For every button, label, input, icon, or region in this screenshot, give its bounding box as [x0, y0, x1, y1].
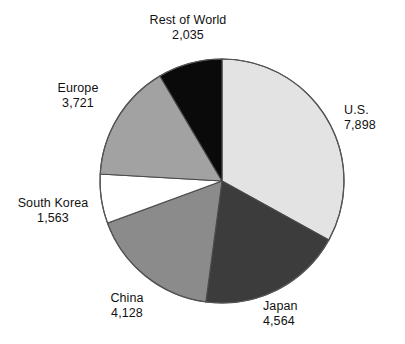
- slice-label-value: 3,721: [34, 96, 122, 111]
- slice-label-name: Europe: [34, 81, 122, 96]
- slice-label-japan: Japan 4,564: [263, 299, 335, 329]
- slice-label-name: Rest of World: [118, 13, 258, 28]
- slice-label-value: 4,128: [84, 306, 170, 321]
- slice-label-value: 4,564: [263, 314, 335, 329]
- slice-label-name: South Korea: [1, 196, 105, 211]
- pie-chart: Rest of World 2,035 U.S. 7,898 Europe 3,…: [0, 0, 405, 344]
- slice-label-value: 2,035: [118, 28, 258, 43]
- slice-label-china: China 4,128: [84, 291, 170, 321]
- pie-chart-canvas: [0, 0, 405, 344]
- slice-label-value: 1,563: [1, 211, 105, 226]
- pie-slice-group: [100, 59, 344, 303]
- slice-label-us: U.S. 7,898: [344, 103, 402, 133]
- slice-label-value: 7,898: [344, 118, 402, 133]
- slice-label-name: Japan: [263, 299, 335, 314]
- slice-label-europe: Europe 3,721: [34, 81, 122, 111]
- slice-label-name: U.S.: [344, 103, 402, 118]
- slice-label-name: China: [84, 291, 170, 306]
- slice-label-south-korea: South Korea 1,563: [1, 196, 105, 226]
- slice-label-rest-of-world: Rest of World 2,035: [118, 13, 258, 43]
